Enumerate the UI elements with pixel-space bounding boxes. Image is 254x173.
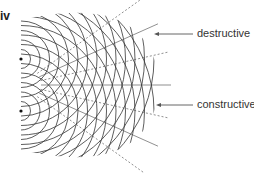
wave-arc: [0, 21, 59, 97]
radial-line: [39, 93, 158, 146]
constructive-label: constructive: [197, 99, 254, 110]
wave-arc: [0, 54, 78, 168]
wave-arc: [0, 12, 69, 107]
interference-diagram: [0, 0, 254, 173]
radial-line: [39, 24, 158, 77]
radial-line: [37, 97, 143, 173]
wave-arc: [0, 2, 78, 116]
destructive-label: destructive: [197, 28, 250, 39]
wave-arc: [0, 73, 59, 149]
radial-line: [37, 0, 143, 73]
source-top-dot: [19, 57, 22, 60]
destructive-arrow: [154, 32, 193, 36]
wave-arc: [0, 64, 69, 159]
source-bottom-dot: [19, 109, 22, 112]
constructive-arrow: [156, 103, 193, 107]
wave-fronts: [0, 0, 154, 173]
